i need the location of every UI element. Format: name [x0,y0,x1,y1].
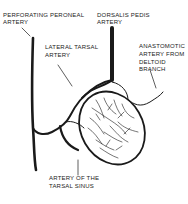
anastomotic-label-2: ARTERY FROM [139,51,185,58]
artery-drawing [0,0,188,204]
lateral-tarsal-label: LATERAL TARSAL [45,44,98,51]
peroneal-loop [33,80,112,134]
lateral-tarsal-label-2: ARTERY [45,52,70,59]
anastomotic-label: ANASTOMOTIC [139,43,185,50]
perforating-peroneal-label: PERFORATING PERONEAL [3,12,84,19]
perforating-peroneal-label-2: ARTERY [3,19,28,26]
dorsalis-pedis-label-2: ARTERY [97,19,122,26]
anastomotic-label-4: BRANCH [139,66,166,73]
tarsal-sinus-artery [60,126,78,150]
tarsal-sinus-label: ARTERY OF THE [49,175,99,182]
dorsalis-pedis-label: DORSALIS PEDIS [97,12,150,19]
intraosseous-vessels [88,98,138,158]
anastomotic-label-3: DELTOID [139,59,166,66]
tarsal-sinus-label-2: TARSAL SINUS [49,183,94,190]
arterial-supply-diagram: PERFORATING PERONEAL ARTERY DORSALIS PED… [0,0,188,204]
perforating-peroneal-artery [32,38,36,170]
